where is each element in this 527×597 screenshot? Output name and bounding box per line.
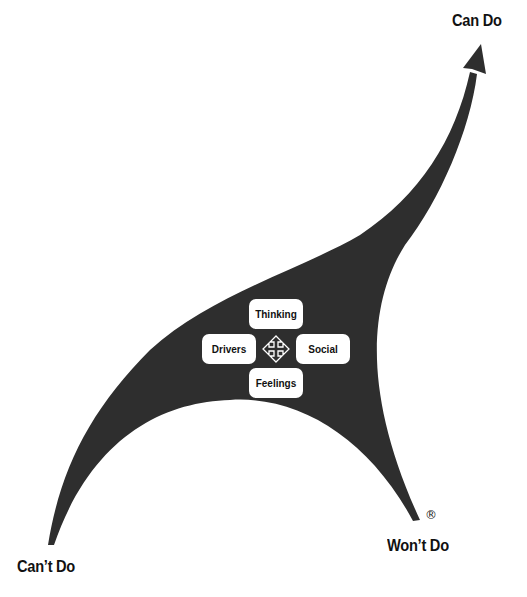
box-social-label: Social: [308, 344, 337, 355]
box-drivers: Drivers: [202, 334, 256, 364]
box-feelings: Feelings: [249, 368, 303, 398]
box-social: Social: [296, 334, 350, 364]
registered-mark-icon: ®: [425, 508, 437, 522]
box-drivers-label: Drivers: [212, 344, 246, 355]
label-wont-do: Won’t Do: [387, 536, 449, 556]
box-thinking-label: Thinking: [255, 309, 297, 320]
box-feelings-label: Feelings: [256, 378, 297, 389]
box-thinking: Thinking: [249, 299, 303, 329]
label-cant-do: Can’t Do: [17, 557, 75, 577]
arrowhead-icon: [463, 44, 486, 74]
label-can-do: Can Do: [452, 11, 502, 31]
